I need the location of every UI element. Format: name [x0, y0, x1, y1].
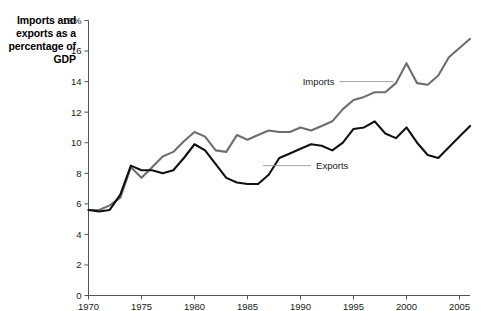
series-line-imports	[89, 39, 471, 210]
x-axis-tick-label: 1990	[290, 301, 311, 311]
x-axis-tick-label: 1985	[237, 301, 258, 311]
series-label-imports: Imports	[303, 76, 335, 87]
y-axis-tick-label: 14	[71, 76, 82, 87]
y-axis-tick-label: 2	[76, 259, 81, 270]
y-axis-tick-label: 18%	[62, 15, 82, 26]
chart-series	[89, 39, 471, 212]
y-axis-tick-label: 4	[76, 229, 81, 240]
y-axis-tick-label: 10	[71, 137, 82, 148]
y-axis-tick-label: 0	[76, 290, 81, 301]
x-axis-tick-label: 1995	[343, 301, 364, 311]
chart-figure: Imports and exports as a percentage of G…	[0, 0, 481, 311]
series-label-exports: Exports	[316, 160, 348, 171]
x-axis-tick-label: 2005	[449, 301, 470, 311]
x-axis-tick-label: 1980	[184, 301, 205, 311]
y-axis-tick-label: 12	[71, 107, 82, 118]
x-axis-tick-label: 1975	[131, 301, 152, 311]
x-axis-tick-label: 2000	[396, 301, 417, 311]
chart-tick-labels: 024681012141618%197019751980198519901995…	[62, 15, 470, 311]
x-axis-tick-label: 1970	[78, 301, 99, 311]
y-axis-tick-label: 8	[76, 168, 81, 179]
y-axis-tick-label: 6	[76, 198, 81, 209]
y-axis-tick-label: 16	[71, 45, 82, 56]
line-chart-plot: 024681012141618%197019751980198519901995…	[0, 0, 481, 311]
series-line-exports	[89, 121, 471, 211]
